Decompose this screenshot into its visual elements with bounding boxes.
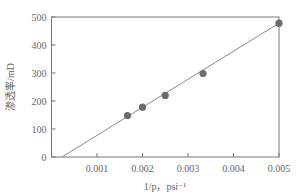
x-tick-label: 0.002 — [131, 163, 154, 174]
y-tick-label: 200 — [32, 96, 47, 107]
data-point — [124, 112, 131, 119]
y-axis-title: 渗透率/mD — [4, 63, 16, 111]
plot-frame — [52, 17, 280, 157]
x-axis: 0.0010.0020.0030.0040.005 — [86, 153, 291, 174]
data-point — [139, 104, 146, 111]
data-point — [162, 92, 169, 99]
data-point — [199, 70, 206, 77]
regression-line — [62, 23, 279, 157]
x-axis-title: 1/p，psi⁻¹ — [144, 181, 187, 192]
data-point — [275, 20, 282, 27]
fit-line — [62, 23, 279, 157]
y-tick-label: 100 — [32, 124, 47, 135]
y-tick-label: 300 — [32, 68, 47, 79]
y-tick-label: 400 — [32, 40, 47, 51]
y-tick-label: 0 — [42, 152, 47, 163]
x-tick-label: 0.004 — [222, 163, 245, 174]
x-tick-label: 0.001 — [86, 163, 109, 174]
plot-border — [52, 17, 280, 157]
x-tick-label: 0.005 — [268, 163, 291, 174]
x-tick-label: 0.003 — [177, 163, 200, 174]
y-tick-label: 500 — [32, 12, 47, 23]
chart: 0100200300400500 0.0010.0020.0030.0040.0… — [0, 0, 306, 196]
